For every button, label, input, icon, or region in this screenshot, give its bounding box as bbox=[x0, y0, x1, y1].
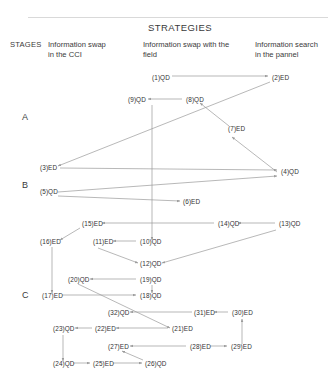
edge-5-to-6 bbox=[58, 196, 180, 201]
node-8[interactable]: (8)QD bbox=[186, 97, 204, 103]
node-24[interactable]: (24)QD bbox=[53, 361, 75, 367]
edge-11-to-12 bbox=[98, 248, 138, 263]
node-14[interactable]: (14)QD bbox=[218, 221, 240, 227]
edge-4-to-7 bbox=[232, 137, 277, 172]
edge-3-to-4 bbox=[60, 168, 277, 170]
node-29[interactable]: (29)ED bbox=[231, 344, 252, 350]
node-21[interactable]: (21)ED bbox=[172, 326, 193, 332]
diagram-canvas: STRATEGIES STAGES Information swapin the… bbox=[0, 0, 334, 382]
node-6[interactable]: (6)ED bbox=[183, 199, 200, 205]
node-3[interactable]: (3)ED bbox=[40, 165, 57, 171]
edge-26-to-27 bbox=[122, 351, 143, 360]
node-28[interactable]: (28)ED bbox=[190, 344, 211, 350]
node-30[interactable]: (30)ED bbox=[232, 310, 253, 316]
edge-13-to-12 bbox=[162, 230, 276, 263]
node-1[interactable]: (1)QD bbox=[152, 75, 170, 81]
node-31[interactable]: (31)ED bbox=[194, 310, 215, 316]
node-26[interactable]: (26)QD bbox=[145, 361, 167, 367]
edge-15-to-16 bbox=[60, 228, 80, 240]
edge-7-to-8 bbox=[200, 103, 229, 126]
edge-5-to-4 bbox=[58, 176, 277, 192]
node-13[interactable]: (13)QD bbox=[279, 221, 301, 227]
node-23[interactable]: (23)QD bbox=[53, 326, 75, 332]
node-4[interactable]: (4)QD bbox=[281, 169, 299, 175]
node-32[interactable]: (32)QD bbox=[108, 310, 130, 316]
node-11[interactable]: (11)ED bbox=[93, 239, 113, 245]
node-17[interactable]: (17)ED bbox=[42, 293, 63, 299]
node-15[interactable]: (15)ED bbox=[82, 221, 103, 227]
node-22[interactable]: (22)ED bbox=[95, 326, 116, 332]
node-2[interactable]: (2)ED bbox=[272, 75, 289, 81]
node-5[interactable]: (5)QD bbox=[40, 189, 58, 195]
node-27[interactable]: (27)ED bbox=[108, 344, 129, 350]
node-16[interactable]: (16)ED bbox=[40, 239, 61, 245]
edge-2-to-3 bbox=[58, 82, 270, 166]
node-7[interactable]: (7)ED bbox=[228, 126, 245, 132]
edge-20-to-21 bbox=[78, 284, 170, 328]
node-12[interactable]: (12)QD bbox=[140, 261, 162, 267]
node-9[interactable]: (9)QD bbox=[128, 97, 146, 103]
node-10[interactable]: (10)QD bbox=[140, 239, 162, 245]
node-19[interactable]: (19)QD bbox=[140, 277, 162, 283]
node-20[interactable]: (20)QD bbox=[68, 277, 90, 283]
node-25[interactable]: (25)ED bbox=[93, 361, 114, 367]
node-18[interactable]: (18)QD bbox=[140, 293, 162, 299]
